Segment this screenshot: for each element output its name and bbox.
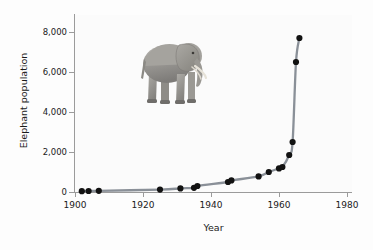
data-point — [228, 177, 234, 183]
data-layer — [0, 0, 373, 250]
population-markers — [79, 35, 303, 194]
data-point — [266, 169, 272, 175]
data-point — [79, 188, 85, 194]
data-point — [286, 152, 292, 158]
data-point — [194, 183, 200, 189]
data-point — [177, 185, 183, 191]
data-point — [293, 59, 299, 65]
population-curve — [82, 38, 300, 191]
data-point — [290, 139, 296, 145]
data-point — [279, 164, 285, 170]
chart-figure: 8,000 6,000 4,000 2,000 0 1900 1920 1940… — [0, 0, 373, 250]
data-point — [96, 188, 102, 194]
data-point — [157, 187, 163, 193]
data-point — [86, 188, 92, 194]
data-point — [256, 173, 262, 179]
data-point — [296, 35, 302, 41]
